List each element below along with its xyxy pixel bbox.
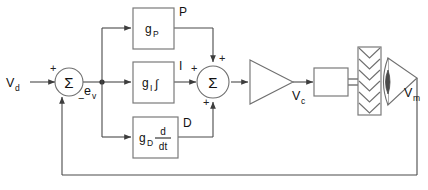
input-voltage-symbol: V (6, 76, 15, 90)
wire-branch-to-derivative (102, 82, 131, 137)
diagram-canvas: Σ + − Σ + + + g P P g I ∫ I (0, 0, 428, 190)
proportional-gain-subscript: P (153, 29, 159, 39)
derivative-operator-denominator: dt (159, 141, 168, 152)
pid-summer-plus-bottom: + (203, 96, 209, 108)
derivative-operator-numerator: d (160, 126, 166, 137)
integral-gain-symbol: g (142, 76, 149, 90)
proportional-tag: P (179, 5, 187, 19)
wire-branch-to-proportional (102, 28, 131, 82)
coil-block (314, 68, 348, 96)
derivative-tag: D (183, 116, 192, 130)
error-summer: Σ + − (50, 62, 84, 104)
label-error-signal: e v (84, 84, 97, 101)
integral-block: g I ∫ I (133, 59, 182, 103)
derivative-gain-subscript: D (147, 138, 153, 148)
error-summer-symbol: Σ (64, 74, 73, 91)
label-command-voltage: V c (292, 89, 306, 106)
label-measured-voltage: V m (404, 86, 420, 103)
measured-voltage-subscript: m (413, 93, 420, 103)
command-voltage-subscript: c (301, 96, 306, 106)
proportional-block: g P P (133, 5, 187, 49)
wire-coil-to-stack (348, 79, 358, 85)
wire-proportional-to-summer (174, 28, 213, 62)
integral-gain-subscript: I (150, 83, 152, 93)
pid-summer: Σ + + + (191, 52, 229, 108)
pid-summer-symbol: Σ (208, 74, 217, 91)
error-summer-plus-sign: + (50, 62, 56, 74)
pid-summer-plus-left: + (191, 62, 197, 74)
integral-tag: I (179, 59, 182, 73)
chevron-stack (358, 47, 381, 115)
label-input-voltage: V d (6, 76, 20, 93)
pid-block-diagram: Σ + − Σ + + + g P P g I ∫ I (0, 0, 428, 190)
error-signal-subscript: v (92, 91, 97, 101)
command-voltage-symbol: V (292, 89, 301, 103)
pid-summer-plus-top: + (219, 52, 225, 64)
derivative-gain-symbol: g (139, 131, 146, 145)
proportional-gain-symbol: g (145, 22, 152, 36)
input-voltage-subscript: d (15, 83, 20, 93)
error-signal-symbol: e (84, 84, 91, 98)
integral-operator-symbol: ∫ (154, 77, 159, 91)
measured-voltage-symbol: V (404, 86, 413, 100)
amplifier-triangle (250, 60, 293, 104)
